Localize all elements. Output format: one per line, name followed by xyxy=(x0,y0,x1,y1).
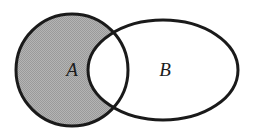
venn-diagram-figure: A B xyxy=(0,0,256,138)
set-label-a: A xyxy=(64,59,78,80)
venn-diagram-canvas: A B xyxy=(0,0,256,138)
set-label-b: B xyxy=(159,59,171,80)
